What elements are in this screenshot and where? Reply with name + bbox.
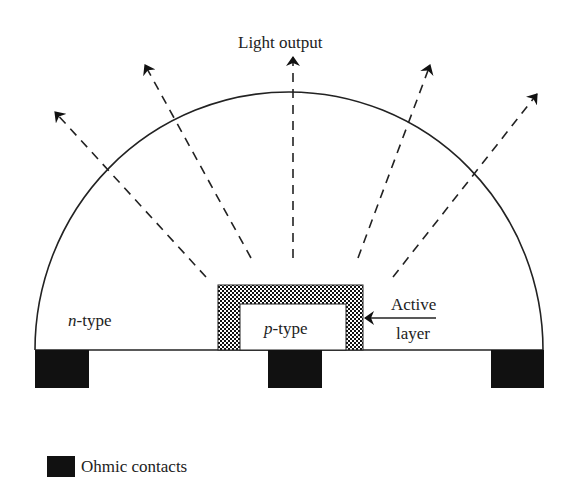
light-ray-5	[393, 94, 537, 277]
ohmic-contact-left	[35, 350, 89, 388]
light-output-label: Light output	[238, 34, 323, 51]
active-label-line2: layer	[396, 325, 430, 342]
light-ray-4	[358, 65, 430, 258]
n-type-suffix: -type	[77, 311, 112, 330]
legend-swatch-ohmic	[47, 456, 75, 477]
ohmic-contact-center	[268, 350, 322, 388]
led-diagram	[0, 0, 574, 487]
p-type-label: p-type	[264, 320, 307, 337]
p-type-suffix: -type	[273, 319, 308, 338]
light-output-text: Light output	[238, 33, 323, 52]
light-ray-2	[145, 65, 251, 258]
n-type-label: n-type	[68, 312, 111, 329]
p-type-prefix: p	[264, 319, 273, 338]
n-type-prefix: n	[68, 311, 77, 330]
legend-label-ohmic: Ohmic contacts	[81, 458, 187, 475]
active-label-line1: Active	[391, 296, 436, 313]
ohmic-contact-right	[491, 350, 544, 388]
light-ray-1	[55, 112, 206, 277]
